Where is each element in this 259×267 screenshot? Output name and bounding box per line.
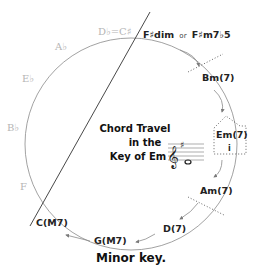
or-label: or bbox=[179, 32, 186, 40]
arrow-d-to-g bbox=[136, 234, 155, 242]
divider-line bbox=[30, 12, 150, 226]
ghost-note-eb: E♭ bbox=[22, 73, 34, 84]
arrow-bm-to-em bbox=[214, 90, 223, 112]
ghost-note-db-cs: D♭=C♯ bbox=[98, 26, 132, 37]
chord-am7: Am(7) bbox=[200, 185, 233, 196]
chord-d7: D(7) bbox=[163, 223, 186, 234]
chord-em7-numeral: i bbox=[228, 144, 231, 153]
arrow-am-to-d bbox=[180, 203, 198, 219]
whole-note-e bbox=[185, 160, 191, 164]
chord-bm7: Bm(7) bbox=[202, 72, 234, 83]
title-line-1: Chord Travel bbox=[99, 123, 170, 134]
chord-gM7: G(M7) bbox=[94, 235, 127, 246]
chord-fsharp-m7b5-label: F♯m7♭5 bbox=[192, 29, 231, 40]
music-staff: 𝄞 ♯ bbox=[167, 140, 204, 169]
treble-clef-icon: 𝄞 bbox=[167, 144, 179, 169]
caption: Minor key. bbox=[96, 251, 166, 265]
title-line-2: in the bbox=[129, 137, 162, 148]
chord-fsharp-dim-label: F♯dim bbox=[143, 29, 174, 40]
chord-cM7: C(M7) bbox=[36, 217, 68, 228]
arrow-em-to-am bbox=[214, 160, 222, 177]
ghost-note-f: F bbox=[20, 181, 27, 192]
title-line-3: Key of Em bbox=[110, 151, 166, 162]
ghost-note-bb: B♭ bbox=[7, 122, 19, 133]
arrow-fsharp-to-bm bbox=[180, 50, 199, 66]
key-signature-sharp: ♯ bbox=[180, 140, 184, 150]
ghost-note-ab: A♭ bbox=[54, 41, 67, 52]
dotted-tick-am bbox=[188, 197, 224, 215]
chord-em7: Em(7) bbox=[216, 129, 248, 140]
chord-travel-diagram: D♭=C♯ A♭ E♭ B♭ F F♯dim or F♯m7♭5 Bm(7) E… bbox=[0, 0, 259, 267]
chord-fsharp-dim: F♯dim or F♯m7♭5 bbox=[143, 29, 231, 40]
